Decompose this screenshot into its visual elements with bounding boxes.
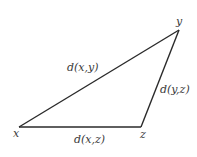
edge-label-x-y: d(x,y) (67, 61, 99, 74)
edge-x-y (19, 30, 179, 127)
edge-label-x-z: d(x,z) (74, 133, 105, 146)
vertex-label-y: y (175, 15, 183, 28)
vertex-label-x: x (13, 127, 20, 140)
edge-y-z (141, 30, 179, 127)
vertex-label-z: z (139, 128, 146, 141)
triangle-diagram: x y z d(x,y) d(y,z) d(x,z) (0, 0, 197, 157)
edge-label-y-z: d(y,z) (160, 83, 190, 96)
